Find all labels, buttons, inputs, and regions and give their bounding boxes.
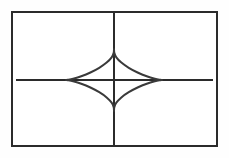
graph-canvas [0,0,229,158]
graph-screenshot [0,0,229,158]
